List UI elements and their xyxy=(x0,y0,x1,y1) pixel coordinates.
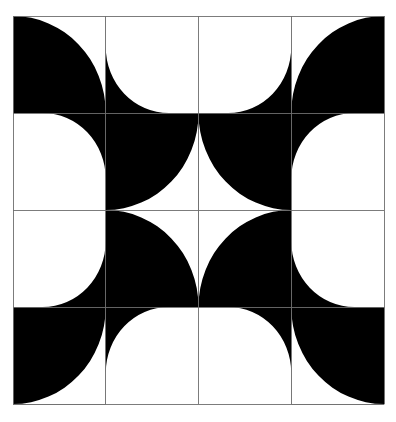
tile-r0-c0 xyxy=(13,16,106,113)
tile-r2-c1 xyxy=(106,210,199,307)
tile-r0-c2 xyxy=(199,16,292,113)
tile-r0-c3 xyxy=(291,16,384,113)
tile-r3-c0 xyxy=(13,307,106,404)
tile-r3-c2 xyxy=(199,307,292,404)
tile-r2-c3 xyxy=(291,210,384,307)
tile-r1-c2 xyxy=(199,113,292,210)
tile-r0-c1 xyxy=(106,16,199,113)
truchet-pattern-svg xyxy=(0,0,396,422)
tile-r3-c3 xyxy=(291,307,384,404)
figure-root xyxy=(0,0,396,422)
tile-r3-c1 xyxy=(106,307,199,404)
tile-r2-c0 xyxy=(13,210,106,307)
tile-r1-c3 xyxy=(291,113,384,210)
tile-r1-c0 xyxy=(13,113,106,210)
tile-r1-c1 xyxy=(106,113,199,210)
tile-r2-c2 xyxy=(199,210,292,307)
